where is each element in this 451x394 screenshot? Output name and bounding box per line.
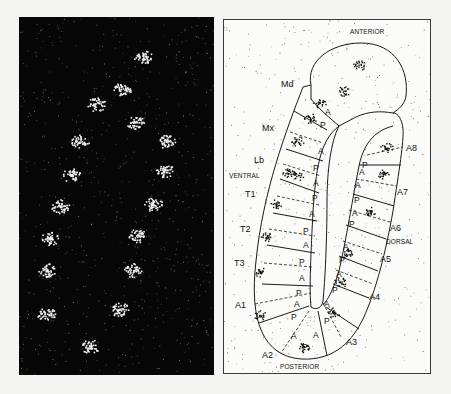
segment-label-mx: Mx (262, 123, 274, 133)
segment-label-a4: A4 (369, 292, 380, 302)
segment-label-a5: A5 (380, 254, 391, 264)
segment-label-a6: A6 (390, 223, 401, 233)
anterior-label: ANTERIOR (350, 28, 385, 35)
segment-label-t3: T3 (234, 258, 245, 268)
segment-label-lb: Lb (254, 155, 264, 165)
dorsal-inner-outline (323, 126, 393, 305)
segment-label-a7: A7 (397, 187, 408, 197)
micrograph-panel (19, 17, 214, 375)
anterior-compartment-label: A (313, 330, 319, 340)
dorsal-label: DORSAL (386, 238, 414, 245)
posterior-compartment-label: P (354, 195, 360, 205)
posterior-compartment-label: P (332, 285, 338, 295)
anterior-compartment-label: A (299, 273, 305, 283)
segment-label-a2: A2 (262, 350, 273, 360)
ventral-label: VENTRAL (229, 172, 260, 179)
posterior-compartment-label: P (296, 288, 302, 298)
posterior-compartment-label: P (339, 255, 345, 265)
anterior-compartment-label: A (324, 299, 330, 309)
anterior-compartment-label: A (291, 331, 297, 341)
anterior-compartment-label: A (294, 299, 300, 309)
segment-label-a1: A1 (235, 300, 246, 310)
segment-label-md: Md (281, 79, 294, 89)
anterior-compartment-label: A (309, 209, 315, 219)
posterior-compartment-label: P (303, 226, 309, 236)
segment-label-a3: A3 (346, 337, 357, 347)
posterior-compartment-label: P (312, 193, 318, 203)
dorsal-segment-boundaries (326, 165, 401, 329)
embryo-schematic: ANTERIOR POSTERIOR VENTRAL DORSAL Md Mx … (224, 20, 431, 374)
anterior-compartment-label: A (359, 167, 365, 177)
posterior-compartment-label: P (299, 257, 305, 267)
posterior-label: POSTERIOR (280, 363, 319, 370)
anterior-compartment-label: A (318, 146, 324, 156)
posterior-compartment-label: P (302, 342, 308, 352)
anterior-compartment-label: A (352, 208, 358, 218)
posterior-compartment-label: P (320, 120, 326, 130)
posterior-compartment-label: P (349, 219, 355, 229)
segment-label-t1: T1 (245, 189, 256, 199)
anterior-compartment-label: A (325, 107, 331, 117)
posterior-compartment-label: P (291, 312, 297, 322)
segment-label-a8: A8 (406, 143, 417, 153)
posterior-compartment-label: P (313, 163, 319, 173)
schematic-panel: ANTERIOR POSTERIOR VENTRAL DORSAL Md Mx … (223, 19, 431, 374)
anterior-compartment-label: A (343, 242, 349, 252)
anterior-compartment-label: A (355, 180, 361, 190)
anterior-compartment-label: A (313, 178, 319, 188)
anterior-compartment-label: A (303, 240, 309, 250)
micrograph-image (19, 17, 214, 375)
anterior-compartment-label: A (336, 269, 342, 279)
segment-label-t2: T2 (240, 224, 251, 234)
posterior-compartment-label: P (324, 316, 330, 326)
expression-stripes (255, 61, 394, 354)
compartment-labels: APAPAPAPAPAPAPAPAPAPAPAPAPAPA (291, 107, 368, 352)
